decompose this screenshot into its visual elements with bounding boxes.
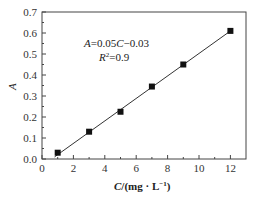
x-tick-label: 8 [165,162,171,174]
r-squared-annotation: R2=0.9 [98,51,130,63]
axis-ticks [42,12,230,159]
x-tick-label: 6 [133,162,139,174]
y-tick-label: 0.1 [23,132,37,144]
chart: 0246810120.00.10.20.30.40.50.60.7 A=0.05… [0,0,254,202]
data-point [86,129,92,135]
y-tick-label: 0.0 [23,153,37,165]
data-point [180,62,186,68]
data-point [227,28,233,34]
x-tick-label: 4 [102,162,108,174]
data-point [118,109,124,115]
y-axis-label: A [6,83,18,91]
y-tick-label: 0.4 [23,69,37,81]
y-tick-label: 0.5 [23,48,37,60]
x-tick-label: 12 [225,162,236,174]
equation-annotation: A=0.05C−0.03 [83,37,150,49]
x-tick-label: 2 [71,162,77,174]
x-tick-label: 10 [194,162,206,174]
y-tick-label: 0.3 [23,90,37,102]
y-tick-label: 0.7 [23,6,37,18]
data-point [149,84,155,90]
x-axis-label: C/(mg · L−1) [114,180,171,193]
plot-frame [42,12,246,159]
y-tick-label: 0.6 [23,27,37,39]
data-point [55,150,61,156]
y-tick-label: 0.2 [23,111,37,123]
tick-labels: 0246810120.00.10.20.30.40.50.60.7 [23,6,236,174]
x-tick-label: 0 [39,162,45,174]
